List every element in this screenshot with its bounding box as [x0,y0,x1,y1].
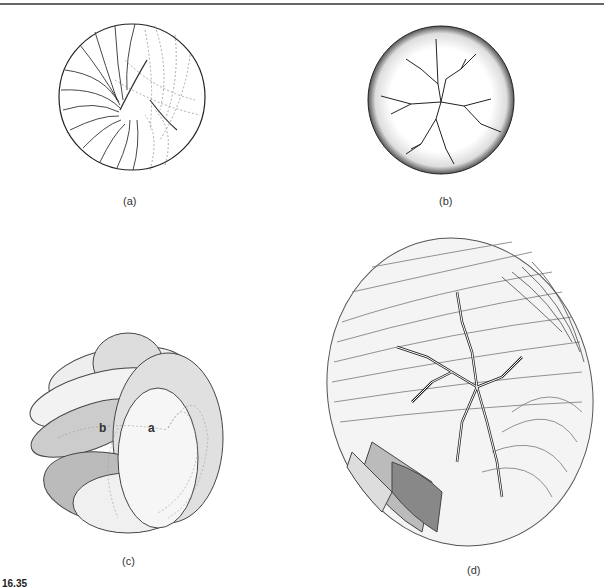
panel-a-illustration [55,20,210,175]
point-b-label: b [99,421,106,435]
panel-d-label: (d) [467,564,480,576]
panel-b-label: (b) [439,195,452,207]
panel-a [55,20,210,175]
panel-b [366,24,516,176]
panel-b-illustration [366,24,516,176]
top-rule [0,3,604,5]
point-a-label: a [148,421,155,435]
figure-caption-number: 16.35 [2,578,27,588]
panel-d-illustration [312,232,600,554]
panel-c [18,318,233,538]
panel-c-illustration [18,318,233,538]
panel-a-label: (a) [123,195,136,207]
panel-d [312,232,600,554]
panel-c-label: (c) [122,555,135,567]
